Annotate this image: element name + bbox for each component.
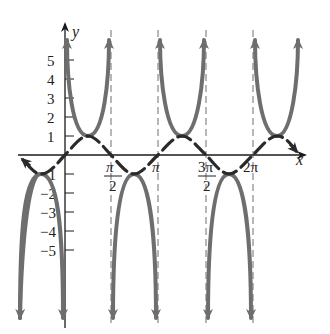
svg-text:3π: 3π bbox=[198, 159, 214, 175]
csc-branch bbox=[67, 40, 88, 136]
y-tick-labels: 5 4 3 2 1 −1 −2 −3 −4 −5 bbox=[40, 53, 56, 259]
svg-text:2π: 2π bbox=[243, 159, 259, 175]
y-tick-label: 5 bbox=[47, 53, 55, 69]
x-tick-pi: π bbox=[152, 159, 160, 175]
csc-branch bbox=[229, 174, 251, 318]
csc-branch bbox=[134, 174, 156, 318]
y-tick-label: −4 bbox=[40, 224, 56, 240]
csc-curve bbox=[20, 40, 298, 318]
function-graph: x y 5 4 3 2 1 −1 −2 −3 −4 −5 bbox=[0, 0, 330, 334]
csc-branch bbox=[255, 40, 277, 136]
asymptotes bbox=[111, 30, 253, 325]
csc-branch bbox=[88, 40, 109, 136]
y-tick-label: 3 bbox=[47, 91, 55, 107]
y-tick-label: −3 bbox=[40, 205, 56, 221]
y-axis-label: y bbox=[70, 23, 80, 41]
svg-text:2: 2 bbox=[109, 178, 117, 194]
csc-branch bbox=[277, 40, 298, 136]
csc-branch bbox=[208, 174, 229, 318]
x-tick-2pi: 2π bbox=[243, 159, 259, 175]
csc-branch bbox=[160, 40, 182, 136]
y-tick-label: −5 bbox=[40, 243, 56, 259]
y-tick-label: 4 bbox=[47, 72, 55, 88]
svg-text:2: 2 bbox=[203, 178, 211, 194]
csc-branch-left-arrow bbox=[20, 174, 40, 318]
x-axis-label: x bbox=[295, 151, 303, 168]
y-tick-label: 1 bbox=[47, 129, 55, 145]
svg-text:π: π bbox=[152, 159, 160, 175]
csc-branch bbox=[113, 174, 134, 318]
svg-text:π: π bbox=[106, 159, 114, 175]
y-tick-label: 2 bbox=[47, 110, 55, 126]
csc-branch bbox=[182, 40, 204, 136]
